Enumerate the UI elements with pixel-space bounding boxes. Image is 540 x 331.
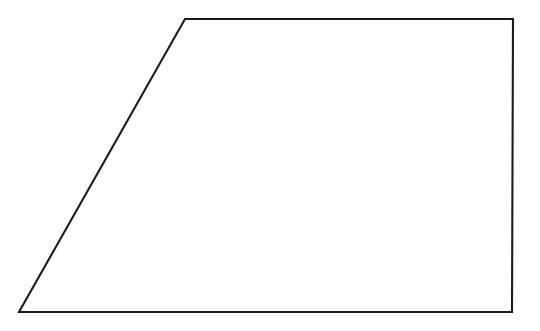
- trapezoid-figure: [0, 0, 540, 331]
- figure-canvas: [0, 0, 540, 331]
